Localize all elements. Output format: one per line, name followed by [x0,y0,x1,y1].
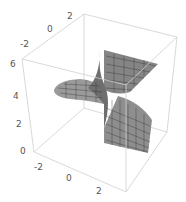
top-axis-ticks: -2 0 2 [20,11,73,49]
surface-plot: -2 0 2 6 4 2 0 -2 0 2 [0,0,186,202]
svg-text:2: 2 [67,11,73,21]
svg-text:0: 0 [20,146,26,156]
svg-text:0: 0 [66,173,72,183]
svg-text:0: 0 [47,24,53,34]
svg-text:2: 2 [16,119,22,129]
helicoid-surface [54,50,158,153]
svg-text:-2: -2 [20,39,29,49]
svg-text:2: 2 [96,186,102,196]
svg-text:4: 4 [13,91,19,101]
svg-text:6: 6 [10,59,16,69]
svg-text:-2: -2 [34,162,43,172]
